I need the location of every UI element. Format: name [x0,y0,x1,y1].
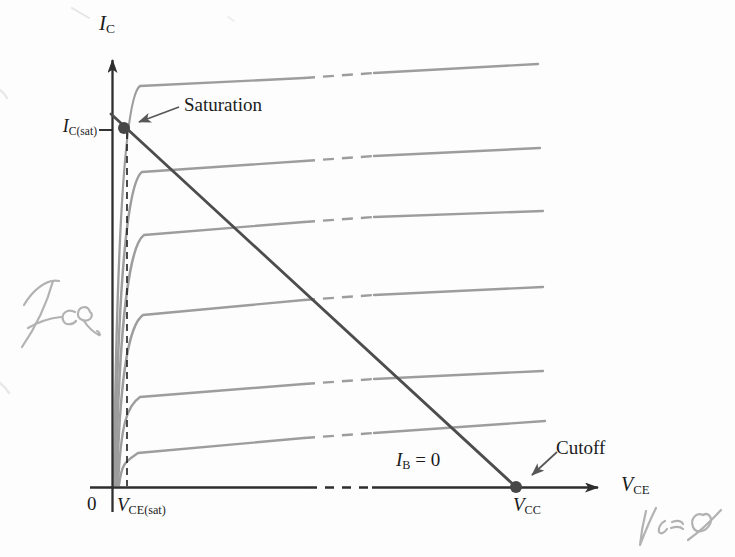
cutoff-label: Cutoff [556,438,605,457]
collector-curve [374,148,540,156]
collector-curve-dashed-break [304,295,374,300]
collector-curve-dashed-break [304,73,374,78]
collector-curve [118,384,304,485]
ib-zero-label: IB = 0 [396,450,440,469]
handwritten-vceq-annotation [640,508,721,545]
collector-curve [374,421,545,433]
load-line-figure: IC VCE IC(sat) Saturation Cutoff IB = 0 … [0,0,735,557]
collector-curve [114,78,304,485]
scan-smudge [72,8,89,18]
saturation-arrow [139,107,179,122]
vcc-label: VCC [513,495,541,514]
ic-sat-label: IC(sat) [63,117,97,135]
cutoff-point-dot [510,481,522,493]
saturation-point-dot [118,122,130,134]
scan-smudge [0,383,9,393]
collector-curve-dashed-break [304,433,374,438]
vce-sat-label: VCE(sat) [117,495,166,514]
scan-smudge [0,90,7,98]
collector-curve [374,211,543,217]
collector-curve [374,64,538,73]
dc-load-line [111,114,516,487]
cutoff-arrow [532,452,557,475]
collector-curve-dashed-break [304,156,374,161]
handwritten-icq-annotation [22,281,100,347]
collector-curve [374,287,543,295]
y-axis-label: IC [99,13,115,34]
collector-curve [115,161,304,485]
x-axis-label: VCE [621,474,650,494]
scan-smudge [228,17,234,21]
collector-curve-dashed-break [304,379,374,384]
origin-label: 0 [87,494,97,513]
saturation-label: Saturation [184,95,262,114]
collector-curve-dashed-break [304,217,374,222]
collector-curve [119,438,304,485]
